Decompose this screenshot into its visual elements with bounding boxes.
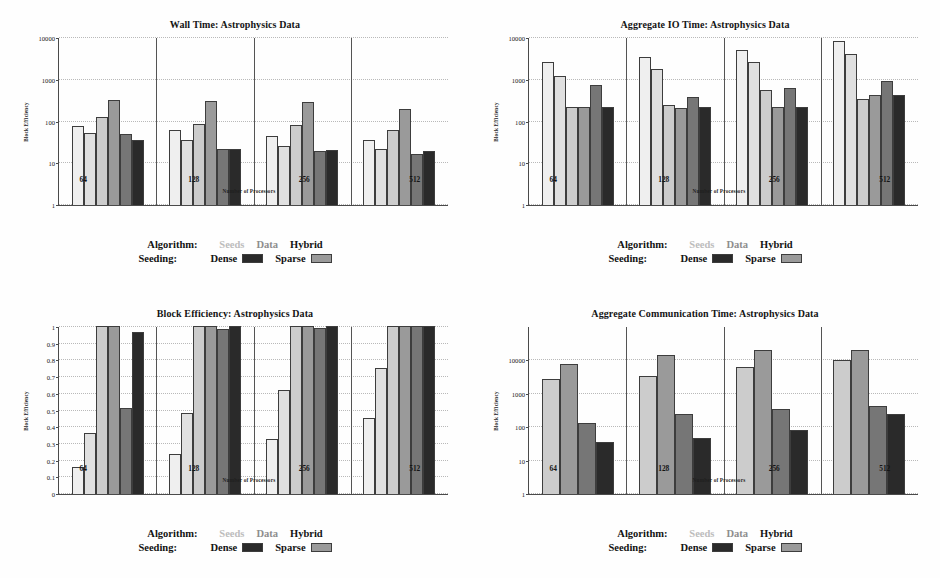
bar	[181, 140, 193, 205]
x-tick-label: 256	[249, 175, 360, 184]
y-tick-label: 0.9	[47, 340, 55, 347]
legend-item-label: Seeds	[219, 238, 244, 251]
y-tick-label: 0.3	[47, 440, 55, 447]
chart-legend: Algorithm:SeedsDataHybridSeeding:DenseSp…	[470, 527, 940, 554]
legend-item-label: Sparse	[275, 252, 305, 265]
legend-item-seeds: Seeds	[219, 527, 244, 540]
chart-legend: Algorithm:SeedsDataHybridSeeding:DenseSp…	[0, 238, 470, 265]
legend-row-algorithm: Algorithm:SeedsDataHybrid	[147, 527, 322, 540]
y-tick-label: 0.4	[47, 424, 55, 431]
legend-item-hybrid: Hybrid	[290, 238, 323, 251]
x-tick-labels: 64128256512	[28, 464, 470, 473]
legend-item-dense: Dense	[210, 541, 263, 554]
y-tick-label: 1	[52, 324, 55, 331]
bar	[375, 368, 387, 494]
legend-item-data: Data	[726, 527, 748, 540]
y-tick-mark	[56, 494, 59, 495]
bar	[120, 134, 132, 205]
bar	[266, 136, 278, 205]
legend-label-algorithm: Algorithm:	[147, 238, 219, 251]
legend-item-sparse: Sparse	[745, 541, 801, 554]
x-tick-label: 256	[249, 464, 360, 473]
bar	[363, 140, 375, 205]
x-tick-label: 128	[139, 175, 250, 184]
bar	[833, 360, 851, 494]
legend-swatch-dense	[712, 543, 733, 552]
x-tick-label: 64	[498, 175, 609, 184]
panel-block-efficiency: Block Efficiency: Astrophysics DataBlock…	[0, 289, 470, 578]
chart-title: Block Efficiency: Astrophysics Data	[0, 307, 470, 320]
legend-swatch-sparse	[311, 254, 332, 263]
legend-item-dense: Dense	[680, 252, 733, 265]
y-axis-label: Block Efficiency	[23, 102, 29, 141]
legend-label-algorithm: Algorithm:	[147, 527, 219, 540]
legend-item-label: Sparse	[745, 252, 775, 265]
bar	[578, 423, 596, 494]
legend-item-dense: Dense	[210, 252, 263, 265]
y-tick-mark	[56, 205, 59, 206]
legend-label-seeding: Seeding:	[608, 541, 680, 554]
x-tick-label: 128	[609, 175, 720, 184]
legend-item-seeds: Seeds	[219, 238, 244, 251]
legend-swatch-dense	[242, 543, 263, 552]
figure-page: Wall Time: Astrophysics DataBlock Effici…	[0, 0, 940, 578]
bar	[560, 364, 578, 494]
legend-row-algorithm: Algorithm:SeedsDataHybrid	[617, 238, 792, 251]
x-tick-labels: 64128256512	[498, 175, 940, 184]
chart-title: Aggregate Communication Time: Astrophysi…	[470, 307, 940, 320]
x-axis-label: Number of Processors	[498, 477, 940, 483]
legend-item-label: Data	[726, 527, 748, 540]
y-tick-label: 0.7	[47, 374, 55, 381]
legend-swatch-dense	[712, 254, 733, 263]
legend-item-hybrid: Hybrid	[760, 238, 793, 251]
x-tick-label: 128	[139, 464, 250, 473]
legend-row-seeding: Seeding:DenseSparse	[608, 252, 801, 265]
legend-item-seeds: Seeds	[689, 527, 714, 540]
legend-item-label: Hybrid	[290, 238, 323, 251]
bar	[132, 140, 144, 205]
legend-item-data: Data	[726, 238, 748, 251]
legend-item-label: Dense	[210, 252, 237, 265]
legend-item-label: Seeds	[689, 527, 714, 540]
panel-wall-time: Wall Time: Astrophysics DataBlock Effici…	[0, 0, 470, 289]
legend-item-label: Data	[726, 238, 748, 251]
legend-label-algorithm: Algorithm:	[617, 527, 689, 540]
legend-item-hybrid: Hybrid	[290, 527, 323, 540]
y-tick-label: 0	[52, 491, 55, 498]
legend-item-sparse: Sparse	[275, 541, 331, 554]
bar	[84, 133, 96, 205]
legend-label-seeding: Seeding:	[608, 252, 680, 265]
legend-item-sparse: Sparse	[745, 252, 801, 265]
legend-row-algorithm: Algorithm:SeedsDataHybrid	[617, 527, 792, 540]
legend-item-sparse: Sparse	[275, 252, 331, 265]
chart-legend: Algorithm:SeedsDataHybridSeeding:DenseSp…	[470, 238, 940, 265]
legend-swatch-dense	[242, 254, 263, 263]
x-tick-label: 128	[609, 464, 720, 473]
x-tick-label: 64	[28, 464, 139, 473]
y-tick-label: 10	[48, 160, 55, 167]
legend-item-label: Sparse	[745, 541, 775, 554]
legend-item-label: Hybrid	[290, 527, 323, 540]
bar	[554, 76, 566, 205]
legend-item-label: Dense	[210, 541, 237, 554]
legend-label-seeding: Seeding:	[138, 541, 210, 554]
legend-item-data: Data	[256, 238, 278, 251]
y-tick-label: 10	[518, 160, 525, 167]
x-tick-label: 512	[830, 464, 940, 473]
bar	[790, 430, 808, 494]
y-tick-label: 1	[52, 202, 55, 209]
x-tick-labels: 64128256512	[28, 175, 470, 184]
y-tick-label: 10000	[509, 357, 525, 364]
legend-item-label: Dense	[680, 541, 707, 554]
panel-aggregate-io-time: Aggregate IO Time: Astrophysics DataBloc…	[470, 0, 940, 289]
chart-title: Wall Time: Astrophysics Data	[0, 18, 470, 31]
x-tick-label: 512	[830, 175, 940, 184]
legend-swatch-sparse	[781, 254, 802, 263]
panel-aggregate-communication-time: Aggregate Communication Time: Astrophysi…	[470, 289, 940, 578]
legend-item-label: Data	[256, 527, 278, 540]
y-tick-label: 1000	[512, 76, 525, 83]
legend-item-label: Seeds	[219, 527, 244, 540]
bar	[736, 367, 754, 494]
bar	[169, 454, 181, 494]
legend-row-algorithm: Algorithm:SeedsDataHybrid	[147, 238, 322, 251]
